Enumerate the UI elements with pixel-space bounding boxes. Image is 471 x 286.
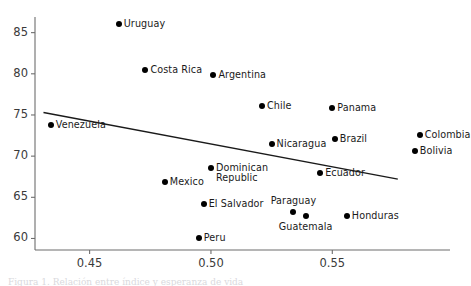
data-point-label: Argentina: [218, 70, 266, 80]
data-point-label: Chile: [267, 101, 292, 111]
y-tick-label: 70: [2, 150, 28, 162]
data-point-label: Guatemala: [276, 222, 336, 232]
x-tick-label: 0.50: [191, 258, 231, 270]
data-point-label: Colombia: [425, 130, 471, 140]
data-point[interactable]: [48, 122, 54, 128]
data-point-label: Ecuador: [325, 168, 365, 178]
data-point-label: Nicaragua: [277, 139, 327, 149]
x-tick-label: 0.55: [312, 258, 352, 270]
data-point[interactable]: [332, 136, 338, 142]
data-point[interactable]: [412, 148, 418, 154]
data-point[interactable]: [329, 105, 335, 111]
x-tick-label: 0.45: [70, 258, 110, 270]
data-point[interactable]: [417, 132, 423, 138]
y-tick-label: 80: [2, 68, 28, 80]
data-point[interactable]: [201, 201, 207, 207]
data-point-label: Dominican Republic: [216, 163, 268, 183]
data-point-label: Venezuela: [56, 120, 106, 130]
data-point[interactable]: [269, 141, 275, 147]
data-point-label: Peru: [204, 233, 226, 243]
y-axis-ticks: [31, 33, 35, 239]
y-tick-label: 85: [2, 27, 28, 39]
y-tick-label: 75: [2, 109, 28, 121]
y-tick-label: 65: [2, 191, 28, 203]
figure-caption: Figura 1. Relación entre índice y espera…: [0, 277, 454, 286]
data-point[interactable]: [208, 165, 214, 171]
data-point[interactable]: [259, 103, 265, 109]
data-point-label: El Salvador: [209, 199, 264, 209]
data-point-label: Brazil: [340, 134, 367, 144]
data-point-label: Paraguay: [267, 196, 319, 206]
data-point[interactable]: [303, 213, 309, 219]
y-tick-label: 60: [2, 232, 28, 244]
data-point-label: Costa Rica: [150, 65, 202, 75]
data-point-label: Mexico: [170, 177, 204, 187]
x-axis-ticks: [90, 250, 333, 254]
data-point-label: Panama: [337, 103, 376, 113]
data-point-label: Uruguay: [124, 19, 165, 29]
data-point-label: Honduras: [352, 211, 399, 221]
data-point-label: Bolivia: [420, 146, 453, 156]
